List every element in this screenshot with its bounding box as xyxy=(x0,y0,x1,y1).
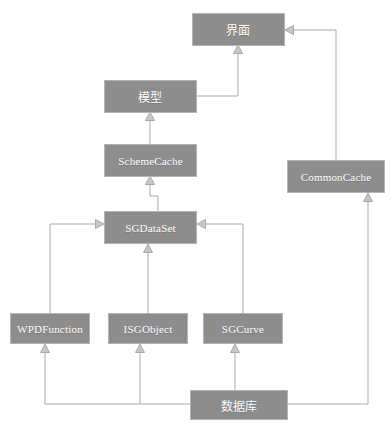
class-hierarchy-diagram: 界面 模型 SchemeCache SGDataSet CommonCache … xyxy=(0,0,392,428)
edge-sgcurve-to-sgdataset xyxy=(197,220,243,314)
edge-database-to-commoncache xyxy=(288,193,373,404)
node-model[interactable]: 模型 xyxy=(104,80,197,113)
node-isgobject[interactable]: ISGObject xyxy=(108,313,188,344)
node-ui[interactable]: 界面 xyxy=(192,13,285,46)
node-sgcurve[interactable]: SGCurve xyxy=(203,313,283,344)
edge-sgdataset-to-schemecache xyxy=(146,176,159,211)
node-sgdataset[interactable]: SGDataSet xyxy=(104,211,197,244)
edge-database-to-sgcurve xyxy=(231,344,240,390)
node-commoncache[interactable]: CommonCache xyxy=(287,160,385,193)
edge-commoncache-to-ui xyxy=(285,26,336,161)
node-wpdfunction[interactable]: WPDFunction xyxy=(10,313,90,344)
node-database[interactable]: 数据库 xyxy=(190,390,288,420)
node-schemecache[interactable]: SchemeCache xyxy=(104,144,197,177)
edge-isgobject-to-sgdataset xyxy=(144,244,153,313)
edge-wpdfunction-to-sgdataset xyxy=(50,220,104,314)
edge-model-to-ui xyxy=(197,45,243,96)
edge-database-to-wpdfunction xyxy=(41,344,141,404)
edge-schemecache-to-model xyxy=(146,112,155,144)
edge-database-to-isgobject xyxy=(136,344,191,404)
